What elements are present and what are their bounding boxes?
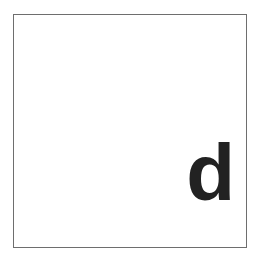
panel-label: d [184, 133, 234, 213]
figure-panel: d [13, 14, 247, 248]
